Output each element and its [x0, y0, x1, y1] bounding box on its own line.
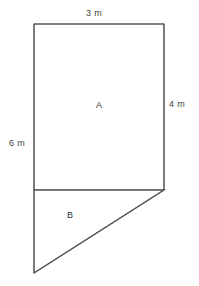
dimension-label-right: 4 m — [169, 100, 185, 109]
geometry-figure: 3 m 4 m 6 m A B — [0, 0, 199, 286]
dimension-label-top: 3 m — [86, 9, 102, 18]
region-label-a: A — [96, 101, 102, 110]
region-label-b: B — [67, 211, 73, 220]
figure-canvas — [0, 0, 199, 286]
dimension-label-left: 6 m — [9, 139, 25, 148]
